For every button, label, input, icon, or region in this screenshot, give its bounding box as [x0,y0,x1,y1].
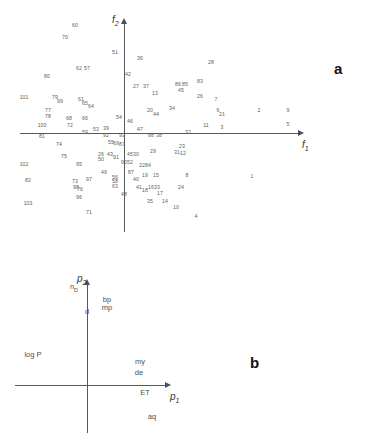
x-axis-arrowhead-b [165,382,171,388]
data-point-label: 41 [136,185,142,190]
data-point-label: 44 [153,112,159,117]
data-point-label: 81 [39,134,45,139]
data-point-label: 82 [25,178,31,183]
scatter-plot-a: f1 f2 6070513628625780422737868583451310… [0,0,378,248]
panel-a: f1 f2 6070513628625780422737868583451310… [0,0,378,248]
data-point-label: 64 [88,104,94,109]
data-point-label: 20 [147,108,153,113]
data-point-label: 87 [128,170,134,175]
data-point-label: 7 [215,97,218,102]
data-point-label: 69 [113,141,119,146]
data-point-label: 95 [76,162,82,167]
data-point-label: 19 [142,173,148,178]
data-point-label: 35 [147,199,153,204]
x-axis-label-a-sub: 1 [305,145,309,152]
data-point-label: nD [70,283,78,293]
data-point-label: 76 [77,187,83,192]
data-point-label: 97 [86,177,92,182]
data-point-label: 99 [57,99,63,104]
data-point-label: 3 [221,125,224,130]
y-axis-label-b-sub: 2 [83,279,87,286]
x-axis-label-b-sub: 1 [176,397,180,404]
data-point-label: ET [140,389,150,398]
data-point-label: 29 [150,149,156,154]
data-point-label: 84 [145,163,151,168]
data-point-label: 75 [61,154,67,159]
data-point-label: mp [102,304,112,313]
data-point-label: log P [24,351,41,360]
data-point-label: de [135,369,143,378]
data-point-label: 31 [174,150,180,155]
data-point-label: 60 [72,23,78,28]
data-point-label: 74 [56,142,62,147]
panel-letter-b: b [250,354,259,371]
data-point-label: 40 [133,177,139,182]
data-point-label: 32 [185,130,191,135]
data-point-label: 46 [127,119,133,124]
data-point-label: aq [148,413,156,422]
data-point-label: 42 [125,72,131,77]
data-point-label: 100 [38,123,47,128]
data-point-label: 54 [116,115,122,120]
y-axis-line-a [124,24,125,232]
data-point-label: 83 [197,79,203,84]
data-point-label: 10 [173,205,179,210]
data-point-label: 15 [153,173,159,178]
data-point-label: 102 [20,162,29,167]
data-point-label: 103 [24,201,33,206]
data-point-label: 17 [157,191,163,196]
data-point-label: 96 [76,195,82,200]
data-point-label: 13 [152,91,158,96]
data-point-label: 78 [45,114,51,119]
y-axis-label-a: f2 [112,14,119,27]
data-point-label: 47 [137,127,143,132]
data-point-label: d [85,308,89,317]
data-point-label: 52 [127,160,133,165]
data-point-label: 9 [287,108,290,113]
data-point-label: 36 [137,56,143,61]
data-point-label: 93 [119,133,125,138]
data-point-label: 14 [162,199,168,204]
data-point-label: 38 [156,133,162,138]
data-point-label: 63 [112,184,118,189]
data-point-label: 92 [103,133,109,138]
data-point-label: 37 [143,84,149,89]
data-point-label: 48 [121,192,127,197]
data-point-label: 80 [44,74,50,79]
data-point-label: 28 [208,60,214,65]
y-axis-label-b: p2 [77,273,86,286]
panel-b: p1 p2 nDdbpmplog PmydeETaq b [0,248,378,448]
data-point-label: 62 [76,66,82,71]
data-point-label: 49 [101,170,107,175]
scatter-plot-b: p1 p2 nDdbpmplog PmydeETaq [0,248,378,448]
y-axis-arrowhead-a [121,18,127,24]
data-point-label: 101 [20,95,29,100]
data-point-label: 16 [148,185,154,190]
data-point-label: 57 [84,66,90,71]
data-point-label: 45 [127,152,133,157]
data-point-label: 65 [82,101,88,106]
data-point-label: 18 [142,188,148,193]
data-point-label: 24 [178,185,184,190]
data-point-label: 30 [133,152,139,157]
data-point-label: 70 [62,35,68,40]
data-point-label: 53 [93,127,99,132]
x-axis-arrowhead-a [298,130,304,136]
data-point-label: 5 [287,122,290,127]
data-point-label: 39 [103,126,109,131]
data-point-label: 91 [113,155,119,160]
data-point-label: 34 [169,106,175,111]
data-point-label: 90 [121,160,127,165]
data-point-label: 1 [251,174,254,179]
y-axis-label-a-sub: 2 [115,20,119,27]
data-point-label: 43 [107,152,113,157]
data-point-label: 50 [98,157,104,162]
x-axis-label-a: f1 [302,139,309,152]
x-axis-line-b [15,385,165,386]
data-point-label: 22 [139,163,145,168]
data-point-label: 26 [197,94,203,99]
data-point-label: 51 [112,50,118,55]
data-point-label: 11 [203,123,208,128]
data-point-label: 66 [82,116,88,121]
data-point-label: 87 [119,142,125,147]
